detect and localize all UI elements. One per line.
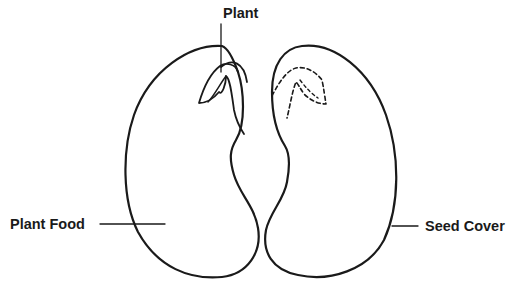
embryo-leaf-dashed-inner	[300, 80, 318, 98]
seed-diagram: Plant Plant Food Seed Cover	[0, 0, 525, 293]
left-seed-outline	[125, 46, 258, 278]
embryo-plant-solid	[199, 64, 244, 134]
embryo-plant-dashed	[272, 68, 326, 118]
label-plant-food: Plant Food	[10, 217, 85, 232]
right-seed-outline	[265, 46, 396, 277]
label-seed-cover: Seed Cover	[425, 219, 505, 234]
label-plant: Plant	[223, 6, 258, 21]
